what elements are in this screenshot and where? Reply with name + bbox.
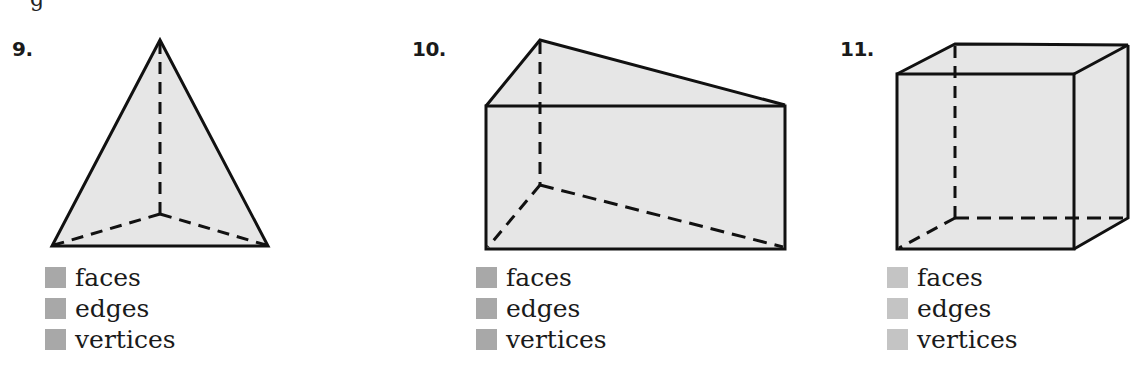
answer-box[interactable] [887,329,908,350]
answer-faces: faces [45,262,176,293]
triangular-pyramid-figure [52,40,268,246]
answer-box[interactable] [887,298,908,319]
answer-vertices: vertices [45,324,176,355]
answer-label: faces [917,262,983,293]
answer-edges: edges [45,293,176,324]
answer-edges: edges [476,293,607,324]
answer-faces: faces [476,262,607,293]
answer-box[interactable] [45,298,66,319]
answer-vertices: vertices [476,324,607,355]
answer-label: edges [75,293,149,324]
problem-11-answers: faces edges vertices [887,262,1018,355]
answer-box[interactable] [476,329,497,350]
answer-edges: edges [887,293,1018,324]
problem-9-answers: faces edges vertices [45,262,176,355]
prism-face [486,40,785,249]
triangular-prism-figure [486,40,785,249]
answer-faces: faces [887,262,1018,293]
answer-label: edges [917,293,991,324]
answer-box[interactable] [887,267,908,288]
answer-box[interactable] [45,329,66,350]
answer-vertices: vertices [887,324,1018,355]
problem-10-answers: faces edges vertices [476,262,607,355]
answer-label: vertices [506,324,607,355]
answer-label: vertices [75,324,176,355]
answer-label: faces [75,262,141,293]
cube-figure [897,44,1128,249]
answer-box[interactable] [476,267,497,288]
answer-box[interactable] [45,267,66,288]
answer-label: edges [506,293,580,324]
answer-label: vertices [917,324,1018,355]
answer-label: faces [506,262,572,293]
answer-box[interactable] [476,298,497,319]
